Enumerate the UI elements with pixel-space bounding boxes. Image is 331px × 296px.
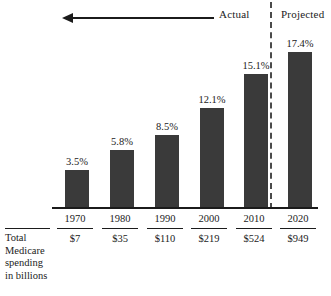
plot-area: 3.5%5.8%8.5%12.1%15.1%17.4% [0,0,331,209]
bar-2020 [288,52,312,208]
spending-amount-2010: $524 [232,232,276,245]
bar-1970 [65,170,89,208]
spending-amount-1970: $7 [53,232,97,245]
year-label-2010: 2010 [232,212,276,225]
bar-2000 [200,108,224,208]
spending-amount-1990: $110 [143,232,187,245]
column-rule-1970 [57,228,93,229]
column-rule-2000 [191,228,227,229]
row-label-line-3: spending [5,257,53,270]
bar-value-label-2000: 12.1% [192,94,232,106]
column-rule-1990 [147,228,183,229]
row-label-line-2: Medicare [5,245,53,258]
bar-1990 [155,135,179,208]
row-label-line-4: in billions [5,270,53,283]
bar-value-label-1970: 3.5% [57,156,97,168]
spending-amount-1980: $35 [98,232,142,245]
bar-1980 [110,150,134,208]
bar-value-label-1990: 8.5% [147,121,187,133]
bar-2010 [244,74,268,208]
year-label-1970: 1970 [53,212,97,225]
column-rule-1980 [102,228,138,229]
year-label-2020: 2020 [276,212,320,225]
row-label: Total Medicare spending in billions [5,232,53,282]
year-label-1990: 1990 [143,212,187,225]
row-label-rule [5,228,50,229]
year-label-2000: 2000 [187,212,231,225]
x-axis-line [52,207,318,209]
bar-value-label-2020: 17.4% [280,38,320,50]
medicare-spending-bar-chart: Actual Projected 3.5%5.8%8.5%12.1%15.1%1… [0,0,331,296]
year-label-1980: 1980 [98,212,142,225]
spending-amount-2000: $219 [187,232,231,245]
spending-amount-2020: $949 [276,232,320,245]
bar-value-label-2010: 15.1% [236,60,276,72]
column-rule-2010 [236,228,272,229]
bar-value-label-1980: 5.8% [102,136,142,148]
row-label-line-1: Total [5,232,53,245]
column-rule-2020 [280,228,316,229]
